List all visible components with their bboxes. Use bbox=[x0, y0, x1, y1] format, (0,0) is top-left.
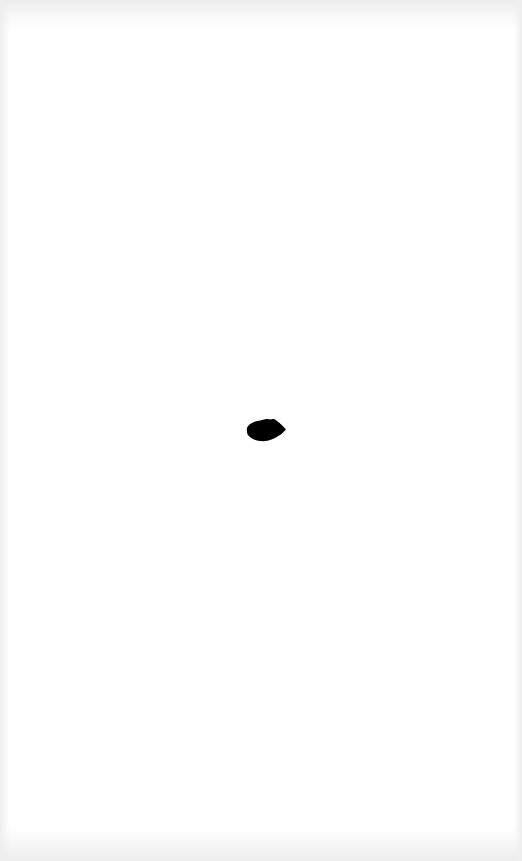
scan-edge-bottom bbox=[0, 827, 522, 861]
scan-edge-left bbox=[0, 0, 10, 861]
scan-edge-right bbox=[514, 0, 522, 861]
scan-edge-top bbox=[0, 0, 522, 28]
ink-blot-icon bbox=[244, 416, 288, 444]
scanned-page: ink-blot bbox=[0, 0, 522, 861]
